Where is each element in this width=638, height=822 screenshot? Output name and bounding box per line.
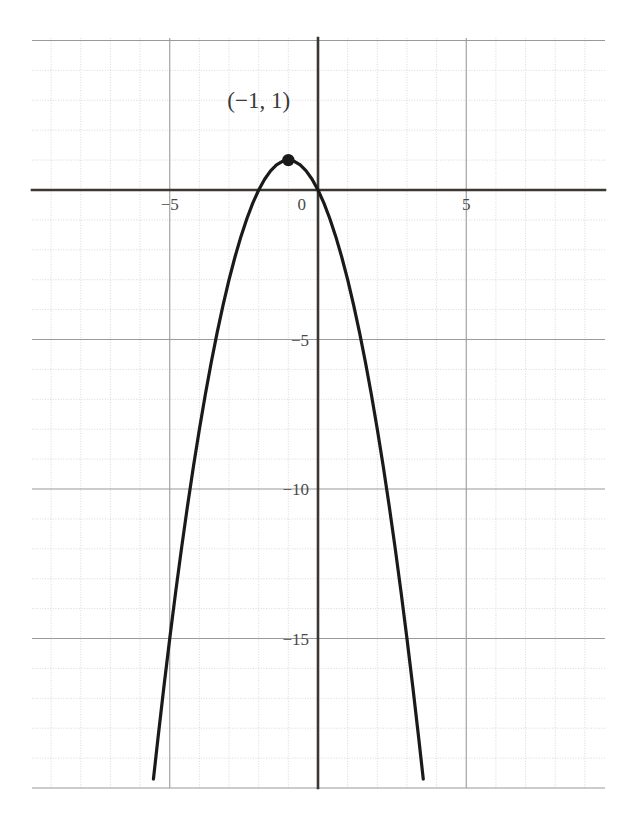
x-tick-label: −5 [161, 195, 179, 214]
y-tick-label: −10 [282, 480, 309, 499]
parabola-plot: −505−5−10−15 (−1, 1) [0, 0, 638, 822]
graph-figure: −505−5−10−15 (−1, 1) [0, 0, 638, 822]
y-tick-label: −15 [282, 630, 309, 649]
vertex-label: (−1, 1) [227, 88, 290, 113]
x-tick-label: 5 [462, 195, 471, 214]
y-tick-label: −5 [291, 331, 309, 350]
x-tick-label: 0 [298, 195, 307, 214]
vertex-marker-icon [282, 154, 294, 166]
